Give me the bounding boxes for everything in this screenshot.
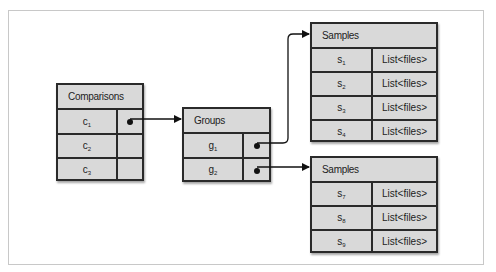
arrow-g1-to-samples-top xyxy=(257,34,309,143)
edge-arrows xyxy=(0,0,496,272)
